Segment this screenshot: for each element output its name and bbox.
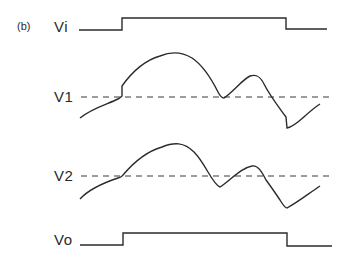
v1-label: V1 [54, 89, 73, 104]
vi-label: Vi [54, 19, 68, 34]
timing-diagram [0, 0, 350, 260]
vo-label: Vo [54, 232, 73, 247]
v2-label: V2 [54, 168, 73, 183]
panel-label: (b) [17, 21, 30, 32]
v1-waveform [80, 53, 320, 128]
vo-waveform [80, 233, 332, 246]
vi-waveform [79, 18, 327, 30]
